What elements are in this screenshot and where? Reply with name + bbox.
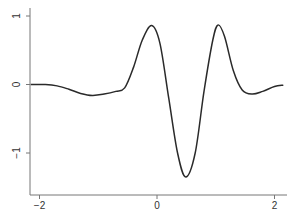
x-tick-label: 0 — [154, 200, 160, 211]
y-tick-label: 1 — [11, 13, 22, 19]
data-curve — [31, 25, 284, 177]
x-tick-label: −2 — [34, 200, 46, 211]
x-axis: −202 — [30, 195, 287, 211]
y-tick-label: 0 — [11, 81, 22, 87]
y-axis: −101 — [11, 8, 30, 195]
y-tick-label: −1 — [11, 147, 22, 159]
x-tick-label: 2 — [272, 200, 278, 211]
line-chart: −101 −202 — [0, 0, 306, 220]
